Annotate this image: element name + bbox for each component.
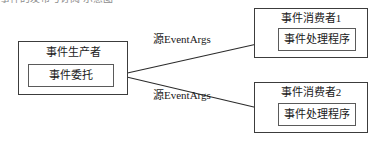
event-consumer-2-box[interactable]: 事件消费者2 事件处理程序 bbox=[254, 82, 368, 133]
event-consumer-1-title: 事件消费者1 bbox=[255, 12, 367, 25]
event-handler-1-label: 事件处理程序 bbox=[284, 33, 350, 46]
diagram-canvas: 事件的发布与订阅 示意图 源EventArgs 源EventArgs 事件生产者… bbox=[0, 0, 379, 141]
event-consumer-1-box[interactable]: 事件消费者1 事件处理程序 bbox=[254, 8, 368, 58]
event-delegate-box[interactable]: 事件委托 bbox=[28, 64, 114, 87]
edge-label-consumer-1: 源EventArgs bbox=[153, 33, 211, 46]
event-handler-2-box[interactable]: 事件处理程序 bbox=[278, 103, 356, 126]
edge-label-consumer-2: 源EventArgs bbox=[153, 89, 211, 102]
event-handler-1-box[interactable]: 事件处理程序 bbox=[278, 28, 356, 51]
event-consumer-2-title: 事件消费者2 bbox=[255, 86, 367, 99]
event-delegate-label: 事件委托 bbox=[49, 69, 93, 82]
event-handler-2-label: 事件处理程序 bbox=[284, 108, 350, 121]
event-producer-box[interactable]: 事件生产者 事件委托 bbox=[18, 41, 128, 95]
event-producer-title: 事件生产者 bbox=[19, 46, 127, 59]
clipped-caption-text: 事件的发布与订阅 示意图 bbox=[0, 0, 170, 4]
